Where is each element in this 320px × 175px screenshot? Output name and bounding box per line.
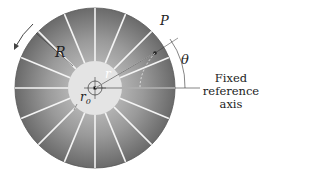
label-r0: r0 [80,90,91,106]
label-R: R [55,44,66,60]
label-fixed-reference-axis: Fixed reference axis [200,72,260,111]
label-r: r [105,67,111,81]
label-P: P [160,13,169,28]
label-theta: θ [181,52,189,67]
